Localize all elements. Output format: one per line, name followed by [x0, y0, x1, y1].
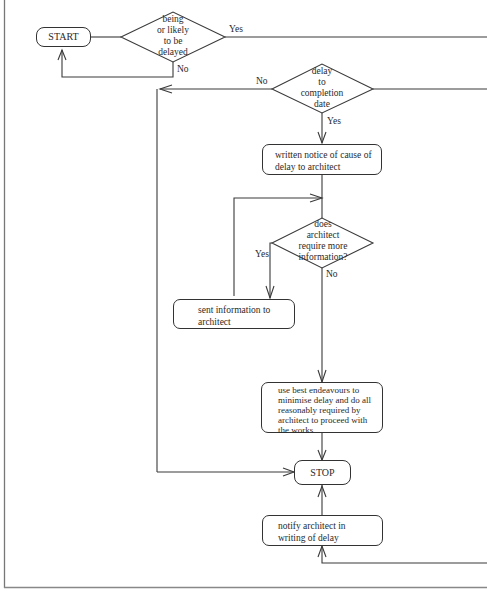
connector-moreinfo-yes	[270, 243, 272, 298]
flowchart-connectors	[0, 0, 487, 591]
flowchart-canvas: START being or likely to be delayed Yes …	[0, 0, 487, 591]
decision-delayed-label: being or likely to be delayed	[143, 14, 203, 58]
edge-label-more-info-no: No	[326, 269, 338, 279]
stop-label: STOP	[310, 467, 334, 479]
notify-architect-text: notify architect in writing of delay	[278, 521, 346, 543]
process-written-notice: written notice of cause of delay to arch…	[262, 144, 382, 175]
decision-more-info-line: require more	[282, 241, 364, 252]
decision-completion-label: delay to completion date	[287, 66, 357, 110]
decision-more-info-line: information?	[282, 252, 364, 263]
sent-information-text: sent information to architect	[198, 305, 270, 327]
process-sent-information: sent information to architect	[173, 299, 295, 329]
decision-completion-line: completion	[287, 88, 357, 99]
process-best-endeavours: use best endeavours to minimise delay an…	[261, 382, 383, 433]
stop-node: STOP	[294, 460, 351, 485]
decision-delayed-line: or likely	[143, 25, 203, 36]
decision-more-info-label: does architect require more information?	[282, 219, 364, 263]
connector-offpage-to-notify	[322, 546, 487, 563]
edge-label-more-info-yes: Yes	[255, 249, 269, 259]
edge-label-delayed-yes: Yes	[229, 24, 243, 34]
edge-label-completion-yes: Yes	[327, 116, 341, 126]
start-label: START	[48, 31, 78, 43]
start-node: START	[36, 27, 91, 47]
written-notice-text: written notice of cause of delay to arch…	[275, 150, 372, 172]
decision-completion-line: date	[287, 99, 357, 110]
edge-label-delayed-no: No	[177, 64, 189, 74]
decision-completion-line: delay	[287, 66, 357, 77]
decision-delayed-line: being	[143, 14, 203, 25]
decision-delayed-line: delayed	[143, 47, 203, 58]
process-notify-architect: notify architect in writing of delay	[262, 515, 383, 546]
decision-more-info-line: does	[282, 219, 364, 230]
decision-more-info-line: architect	[282, 230, 364, 241]
best-endeavours-text: use best endeavours to minimise delay an…	[278, 385, 371, 435]
decision-completion-line: to	[287, 77, 357, 88]
decision-delayed-line: to be	[143, 36, 203, 47]
edge-label-completion-no: No	[256, 76, 268, 86]
